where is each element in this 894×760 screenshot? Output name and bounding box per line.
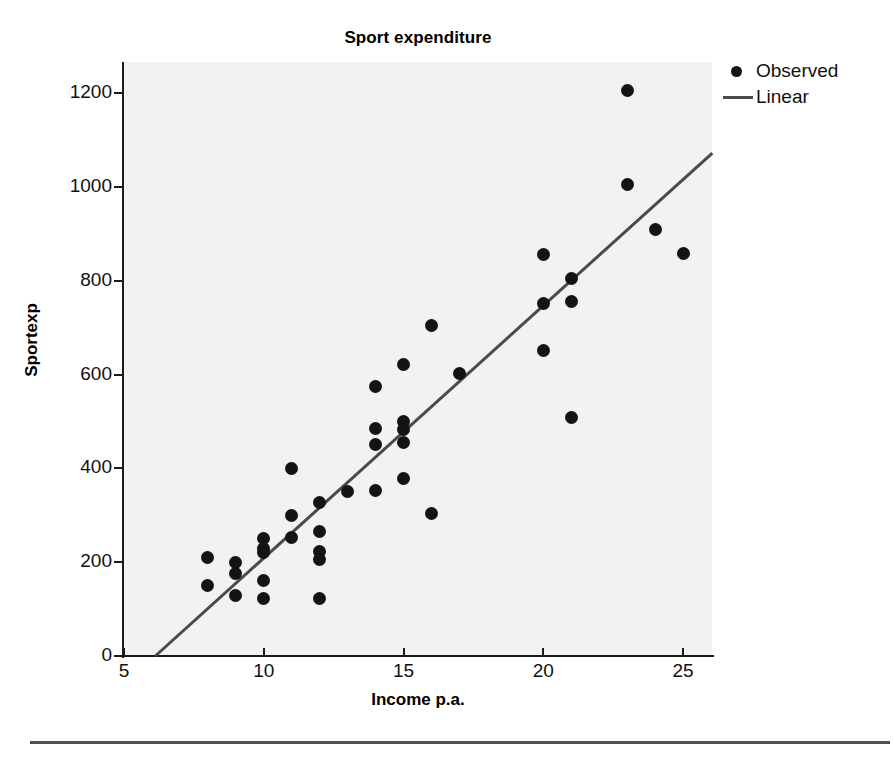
y-tick-mark xyxy=(114,374,123,376)
y-axis-title: Sportexp xyxy=(22,270,42,410)
x-tick-label-wrap: 5 xyxy=(94,660,154,684)
x-axis-line xyxy=(122,655,714,657)
x-tick-label-wrap: 10 xyxy=(234,660,294,684)
x-tick-mark xyxy=(403,648,405,657)
x-tick-mark xyxy=(542,648,544,657)
y-tick-label: 1000 xyxy=(40,175,112,197)
legend-item[interactable]: Linear xyxy=(722,84,887,110)
x-tick-label: 15 xyxy=(374,660,434,682)
x-tick-mark xyxy=(682,648,684,657)
y-tick-label: 800 xyxy=(40,269,112,291)
dot-icon xyxy=(731,66,742,77)
y-tick-label-wrap: 1200 xyxy=(28,81,112,103)
x-tick-label: 10 xyxy=(234,660,294,682)
y-tick-label: 600 xyxy=(40,363,112,385)
x-tick-label: 25 xyxy=(653,660,713,682)
chart-legend: ObservedLinear xyxy=(722,58,887,110)
y-axis-line xyxy=(122,62,124,658)
y-tick-mark xyxy=(114,92,123,94)
y-tick-label: 200 xyxy=(40,550,112,572)
bottom-divider xyxy=(30,741,890,744)
y-tick-mark xyxy=(114,186,123,188)
plot-area xyxy=(124,62,712,656)
legend-label: Observed xyxy=(756,60,838,82)
y-tick-mark xyxy=(114,561,123,563)
legend-item[interactable]: Observed xyxy=(722,58,887,84)
x-axis-title: Income p.a. xyxy=(124,690,712,710)
legend-line-icon xyxy=(722,86,756,108)
x-tick-label-wrap: 25 xyxy=(653,660,713,684)
x-tick-mark xyxy=(123,648,125,657)
y-tick-mark xyxy=(114,280,123,282)
legend-label: Linear xyxy=(756,86,809,108)
y-tick-mark xyxy=(114,655,123,657)
x-tick-label: 5 xyxy=(94,660,154,682)
y-tick-mark xyxy=(114,467,123,469)
y-tick-label-wrap: 400 xyxy=(28,456,112,478)
x-tick-label-wrap: 20 xyxy=(513,660,573,684)
x-tick-label-wrap: 15 xyxy=(374,660,434,684)
line-icon xyxy=(723,96,753,99)
chart-title: Sport expenditure xyxy=(124,28,712,48)
legend-dot-icon xyxy=(722,60,756,82)
y-tick-label-wrap: 1000 xyxy=(28,175,112,197)
y-tick-label: 400 xyxy=(40,456,112,478)
scatter-chart-figure: Sport expenditure 020040060080010001200 … xyxy=(0,0,894,760)
y-tick-label: 1200 xyxy=(40,81,112,103)
y-tick-label-wrap: 200 xyxy=(28,550,112,572)
x-tick-label: 20 xyxy=(513,660,573,682)
x-tick-mark xyxy=(263,648,265,657)
